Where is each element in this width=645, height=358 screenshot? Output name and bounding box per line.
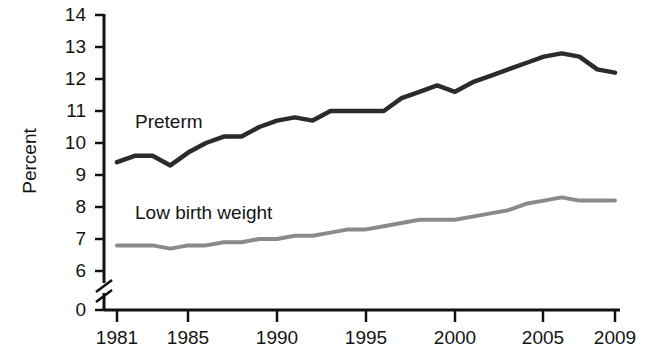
x-tick-label-1981: 1981 xyxy=(87,328,147,347)
y-axis-title: Percent xyxy=(19,106,41,216)
x-tick-label-1985: 1985 xyxy=(158,328,218,347)
y-tick-label-8: 8 xyxy=(52,197,86,216)
x-tick-label-2000: 2000 xyxy=(425,328,485,347)
y-tick-label-6: 6 xyxy=(52,261,86,280)
x-tick-label-1990: 1990 xyxy=(247,328,307,347)
x-tick-label-1995: 1995 xyxy=(336,328,396,347)
series-label-preterm: Preterm xyxy=(135,112,203,131)
chart-canvas xyxy=(0,0,645,358)
x-axis-ticks xyxy=(117,310,615,322)
series-line-preterm xyxy=(117,53,615,165)
line-chart: Percent 14 13 12 11 10 9 8 7 6 0 1981 19… xyxy=(0,0,645,358)
y-tick-label-7: 7 xyxy=(52,229,86,248)
axes xyxy=(95,14,620,322)
y-tick-label-13: 13 xyxy=(52,37,86,56)
y-tick-label-11: 11 xyxy=(52,101,86,120)
x-tick-label-2005: 2005 xyxy=(513,328,573,347)
y-tick-label-14: 14 xyxy=(52,5,86,24)
x-tick-label-2009: 2009 xyxy=(585,328,645,347)
y-tick-label-0: 0 xyxy=(52,300,86,319)
y-tick-label-10: 10 xyxy=(52,133,86,152)
series-label-low-birth-weight: Low birth weight xyxy=(135,203,272,222)
y-tick-label-9: 9 xyxy=(52,165,86,184)
y-tick-label-12: 12 xyxy=(52,69,86,88)
